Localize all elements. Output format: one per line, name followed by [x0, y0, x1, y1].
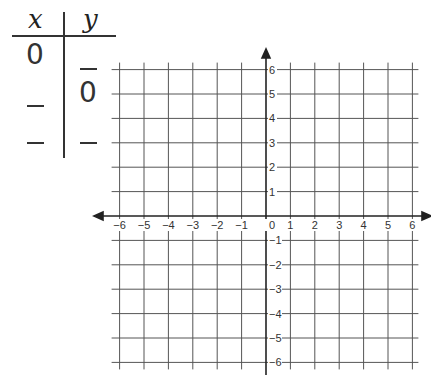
x-tick-labels: −6−5−4−3−2−10123456: [112, 219, 421, 231]
x-tick-label: −4: [162, 219, 175, 231]
y-axis-up-arrow-icon: [262, 49, 270, 58]
x-tick-label: −5: [138, 219, 151, 231]
x-tick-label: 2: [312, 219, 318, 231]
y-tick-label: 3: [269, 137, 275, 149]
y-tick-label: −3: [269, 283, 282, 295]
x-axis-left-arrow-icon: [94, 212, 103, 220]
y-tick-label: 1: [269, 186, 275, 198]
y-tick-label: 6: [269, 64, 275, 76]
y-tick-label: −4: [269, 308, 282, 320]
y-tick-label: −5: [269, 332, 282, 344]
y-tick-label: −2: [269, 259, 282, 271]
x-tick-label: −6: [113, 219, 126, 231]
y-tick-label: 2: [269, 161, 275, 173]
x-tick-label: −1: [235, 219, 248, 231]
x-tick-label: −3: [187, 219, 200, 231]
x-tick-label: 5: [385, 219, 391, 231]
x-tick-label: −2: [211, 219, 224, 231]
coordinate-grid[interactable]: −6−5−4−3−2−10123456 654321−1−2−3−4−5−6: [0, 0, 431, 375]
x-tick-label: 3: [336, 219, 342, 231]
axes: [94, 49, 431, 375]
y-tick-label: −1: [269, 234, 282, 246]
y-tick-label: 4: [269, 112, 275, 124]
x-tick-label: 1: [287, 219, 293, 231]
y-tick-label: 5: [269, 88, 275, 100]
x-tick-label: 4: [361, 219, 367, 231]
y-tick-label: −6: [269, 356, 282, 368]
x-axis-right-arrow-icon: [422, 212, 431, 220]
x-tick-label: 0: [269, 219, 275, 231]
x-tick-label: 6: [409, 219, 415, 231]
